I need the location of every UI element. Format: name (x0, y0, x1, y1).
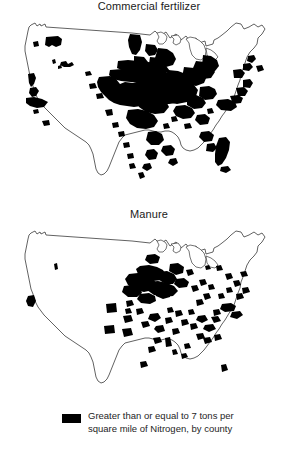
map-canvas-commercial-fertilizer (0, 14, 298, 199)
map-canvas-manure (0, 222, 298, 407)
map-title-manure: Manure (0, 208, 298, 221)
nitrogen-maps-figure: Commercial fertilizer (0, 0, 298, 449)
legend-swatch-threshold (62, 414, 81, 423)
legend-label-line-2: square mile of Nitrogen, by county (88, 423, 293, 436)
map-title-commercial-fertilizer: Commercial fertilizer (0, 0, 298, 13)
legend-label-line-1: Greater than or equal to 7 tons per (88, 410, 293, 423)
us-map-manure (0, 222, 298, 407)
map-legend: Greater than or equal to 7 tons per squa… (62, 410, 292, 440)
us-map-commercial-fertilizer (0, 14, 298, 199)
legend-label: Greater than or equal to 7 tons per squa… (88, 410, 293, 435)
map-panel-commercial-fertilizer: Commercial fertilizer (0, 0, 298, 212)
map-panel-manure: Manure (0, 208, 298, 403)
